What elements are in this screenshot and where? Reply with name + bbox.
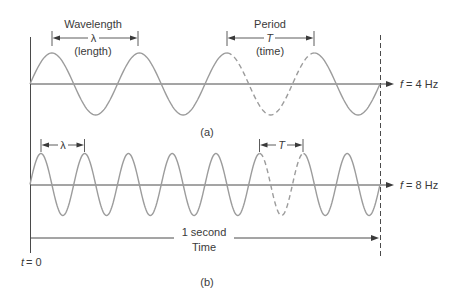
arrowhead-icon <box>386 81 394 87</box>
frequency-label-b: f= 8 Hz <box>400 179 438 191</box>
period-symbol-b: T <box>278 139 286 151</box>
period-symbol: T <box>266 32 274 44</box>
frequency-variable: f <box>400 179 404 191</box>
wavelength-title: Wavelength <box>64 18 122 30</box>
wavelength-symbol-b: λ <box>60 139 66 151</box>
arrowhead-icon <box>77 143 85 148</box>
time-origin-label: t= 0 <box>21 256 42 268</box>
time-axis-label: Time <box>192 241 216 253</box>
arrowhead-icon <box>228 36 236 41</box>
frequency-variable: f <box>400 78 404 90</box>
panel-a: Wavelength λ (length) Period T (time) f=… <box>30 18 438 138</box>
arrowhead-icon <box>306 36 314 41</box>
wavelength-symbol: λ <box>91 32 97 44</box>
panel-a-caption: (a) <box>200 126 213 138</box>
time-axis: 1 second Time t= 0 (b) <box>21 226 379 288</box>
duration-label: 1 second <box>182 226 227 238</box>
arrowhead-icon <box>371 235 379 241</box>
arrowhead-icon <box>386 182 394 188</box>
wavelength-note: (length) <box>74 45 111 57</box>
panel-b: λ T f= 8 Hz <box>30 139 438 216</box>
frequency-label-a: f= 4 Hz <box>400 78 438 90</box>
time-variable: t <box>21 256 25 268</box>
arrowhead-icon <box>130 36 138 41</box>
arrowhead-icon <box>42 143 50 148</box>
frequency-value: = 8 Hz <box>406 179 438 191</box>
arrowhead-icon <box>53 36 61 41</box>
period-title: Period <box>254 18 286 30</box>
panel-b-caption: (b) <box>200 276 213 288</box>
arrowhead-icon <box>295 143 303 148</box>
wave-diagram: Wavelength λ (length) Period T (time) f=… <box>0 0 459 305</box>
frequency-value: = 4 Hz <box>406 78 438 90</box>
arrowhead-icon <box>260 143 268 148</box>
time-origin-value: = 0 <box>26 256 42 268</box>
period-note: (time) <box>256 45 284 57</box>
